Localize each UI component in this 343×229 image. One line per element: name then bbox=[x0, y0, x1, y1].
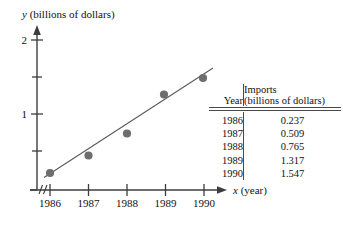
data-point-1988 bbox=[123, 129, 131, 137]
x-axis-arrowhead bbox=[217, 186, 227, 194]
x-tick-label-1989: 1989 bbox=[155, 197, 178, 209]
y-axis bbox=[31, 25, 43, 190]
table-row: 1986 0.237 bbox=[209, 114, 341, 127]
y-tick-label-2: 2 bbox=[22, 34, 28, 46]
data-point-1989 bbox=[160, 90, 168, 98]
cell-year: 1989 bbox=[209, 154, 244, 167]
table-header-imports-line1: Imports bbox=[244, 84, 341, 95]
table-header-year: Year bbox=[209, 84, 244, 106]
y-tick-label-1: 1 bbox=[22, 108, 28, 120]
x-tick-label-1986: 1986 bbox=[39, 197, 62, 209]
y-axis-title: y (billions of dollars) bbox=[21, 8, 115, 21]
cell-year: 1986 bbox=[209, 114, 244, 127]
best-fit-line bbox=[44, 68, 213, 178]
x-tick-label-1990: 1990 bbox=[193, 197, 216, 209]
table-header-imports-line2: (billions of dollars) bbox=[244, 95, 341, 106]
x-axis-title: x (year) bbox=[232, 184, 267, 197]
cell-imports: 0.765 bbox=[244, 140, 342, 153]
x-axis bbox=[30, 184, 227, 196]
data-point-1990 bbox=[199, 74, 207, 82]
y-axis-arrowhead bbox=[33, 25, 41, 35]
x-tick-label-1987: 1987 bbox=[78, 197, 101, 209]
table-row: 1989 1.317 bbox=[209, 154, 341, 167]
y-axis-title-unit: (billions of dollars) bbox=[30, 8, 115, 21]
table-double-rule bbox=[209, 107, 341, 111]
table: Year Imports (billions of dollars) 1986 … bbox=[209, 84, 341, 180]
table-row: 1990 1.547 bbox=[209, 167, 341, 180]
table-row: 1988 0.765 bbox=[209, 140, 341, 153]
x-axis-title-unit: (year) bbox=[241, 184, 268, 197]
data-point-1987 bbox=[84, 151, 92, 159]
cell-imports: 0.237 bbox=[244, 114, 342, 127]
data-point-1986 bbox=[46, 169, 54, 177]
cell-imports: 1.547 bbox=[244, 167, 342, 180]
table-header-row: Year Imports (billions of dollars) bbox=[209, 84, 341, 106]
scatter-plot-figure: 2 1 1986 1987 1988 1989 1990 y (billions… bbox=[0, 0, 343, 229]
cell-imports: 0.509 bbox=[244, 127, 342, 140]
cell-year: 1988 bbox=[209, 140, 244, 153]
cell-imports: 1.317 bbox=[244, 154, 342, 167]
imports-data-table: Year Imports (billions of dollars) 1986 … bbox=[209, 84, 341, 180]
table-row: 1987 0.509 bbox=[209, 127, 341, 140]
x-tick-label-1988: 1988 bbox=[116, 197, 139, 209]
cell-year: 1990 bbox=[209, 167, 244, 180]
cell-year: 1987 bbox=[209, 127, 244, 140]
table-header-imports: Imports (billions of dollars) bbox=[244, 84, 342, 106]
